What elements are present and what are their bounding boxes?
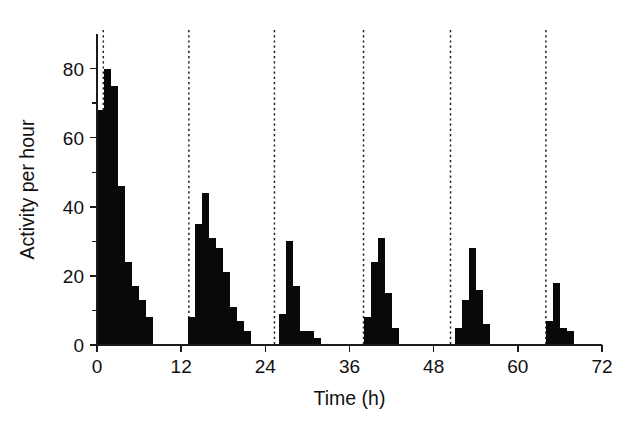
x-tick-label: 24 — [255, 356, 277, 377]
x-tick-label: 12 — [171, 356, 192, 377]
bar — [188, 317, 195, 345]
bar — [230, 307, 237, 345]
bar — [546, 321, 553, 345]
bar — [279, 314, 286, 345]
bar — [567, 331, 574, 345]
y-tick-label: 0 — [73, 335, 84, 356]
x-tick-label: 60 — [507, 356, 528, 377]
bar — [237, 321, 244, 345]
bar — [293, 286, 300, 345]
bar — [307, 331, 314, 345]
x-axis-label: Time (h) — [314, 387, 386, 409]
bar — [553, 283, 560, 345]
x-tick-label: 0 — [92, 356, 103, 377]
x-tick-label: 72 — [591, 356, 612, 377]
activity-histogram-figure: 0204060800122436486072Time (h)Activity p… — [0, 0, 640, 425]
bar — [371, 262, 378, 345]
bar — [209, 238, 216, 345]
bar — [385, 293, 392, 345]
bar — [244, 331, 251, 345]
axes-group — [90, 34, 602, 352]
bar — [111, 86, 118, 345]
bar — [364, 317, 371, 345]
bar — [476, 290, 483, 345]
y-tick-label: 60 — [63, 128, 84, 149]
x-tick-label: 36 — [339, 356, 360, 377]
bar — [286, 241, 293, 345]
bar — [392, 328, 399, 345]
bar — [455, 328, 462, 345]
bars-group — [97, 69, 574, 345]
bar — [195, 224, 202, 345]
bar — [462, 300, 469, 345]
bar — [125, 262, 132, 345]
x-tick-label: 48 — [423, 356, 444, 377]
y-tick-label: 20 — [63, 266, 84, 287]
bar — [378, 238, 385, 345]
y-tick-label: 40 — [63, 197, 84, 218]
y-tick-label: 80 — [63, 59, 84, 80]
bar — [314, 338, 321, 345]
bar — [560, 328, 567, 345]
bar — [146, 317, 153, 345]
bar — [139, 300, 146, 345]
chart-canvas: 0204060800122436486072Time (h)Activity p… — [0, 0, 640, 425]
bar — [300, 331, 307, 345]
bar — [132, 286, 139, 345]
bar — [469, 248, 476, 345]
bar — [97, 110, 104, 345]
bar — [118, 186, 125, 345]
bar — [216, 248, 223, 345]
bar — [202, 193, 209, 345]
y-axis-label: Activity per hour — [16, 119, 38, 259]
bar — [223, 272, 230, 345]
bar — [104, 69, 111, 345]
bar — [483, 324, 490, 345]
